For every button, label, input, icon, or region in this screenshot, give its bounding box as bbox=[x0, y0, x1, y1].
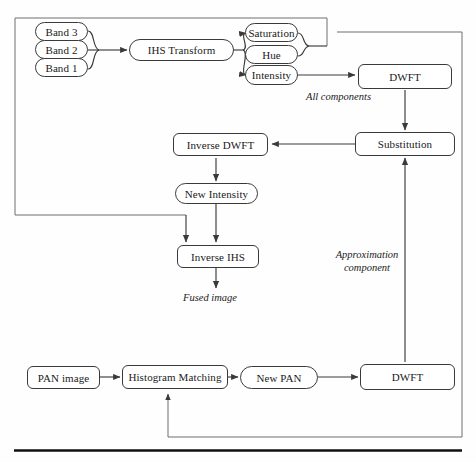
node-pan-image[interactable]: PAN image bbox=[27, 366, 100, 389]
node-ihs-transform-label: IHS Transform bbox=[148, 44, 216, 56]
node-band-1-label: Band 1 bbox=[45, 62, 77, 74]
node-intensity-label: Intensity bbox=[252, 69, 291, 81]
node-new-intensity[interactable]: New Intensity bbox=[175, 183, 258, 204]
node-substitution[interactable]: Substitution bbox=[355, 132, 455, 156]
node-new-pan[interactable]: New PAN bbox=[240, 366, 318, 389]
node-band-3[interactable]: Band 3 bbox=[35, 22, 88, 41]
node-dwft-top-label: DWFT bbox=[389, 71, 421, 83]
annotation-all-components: All components bbox=[306, 91, 371, 102]
node-inverse-dwft-label: Inverse DWFT bbox=[187, 139, 255, 151]
node-new-intensity-label: New Intensity bbox=[185, 188, 248, 200]
node-histogram-matching[interactable]: Histogram Matching bbox=[122, 365, 228, 389]
saturation-brace bbox=[298, 33, 309, 46]
band1-brace bbox=[88, 50, 99, 69]
node-saturation[interactable]: Saturation bbox=[245, 23, 298, 42]
hue-brace bbox=[298, 46, 309, 56]
annotation-fused-image: Fused image bbox=[183, 292, 237, 303]
node-hue-label: Hue bbox=[262, 49, 281, 61]
feedback-loop-path bbox=[168, 394, 462, 437]
node-inverse-ihs-label: Inverse IHS bbox=[191, 251, 245, 263]
node-dwft-bottom-label: DWFT bbox=[392, 371, 424, 383]
flowchart-diagram: Band 3 Band 2 Band 1 IHS Transform Satur… bbox=[0, 0, 476, 462]
node-hue[interactable]: Hue bbox=[245, 45, 298, 64]
node-new-pan-label: New PAN bbox=[256, 372, 301, 384]
band3-brace bbox=[88, 31, 99, 50]
node-dwft-top[interactable]: DWFT bbox=[358, 64, 452, 89]
node-substitution-label: Substitution bbox=[378, 138, 432, 150]
node-band-3-label: Band 3 bbox=[45, 26, 77, 38]
node-band-1[interactable]: Band 1 bbox=[35, 58, 88, 77]
node-band-2-label: Band 2 bbox=[45, 44, 77, 56]
node-histogram-matching-label: Histogram Matching bbox=[128, 371, 221, 383]
node-band-2[interactable]: Band 2 bbox=[35, 40, 88, 59]
node-saturation-label: Saturation bbox=[248, 27, 294, 39]
node-dwft-bottom[interactable]: DWFT bbox=[360, 364, 455, 390]
node-inverse-ihs[interactable]: Inverse IHS bbox=[177, 245, 259, 268]
node-pan-image-label: PAN image bbox=[38, 372, 90, 384]
annotation-approximation-component: Approximation component bbox=[326, 248, 408, 274]
node-ihs-transform[interactable]: IHS Transform bbox=[129, 39, 234, 61]
node-inverse-dwft[interactable]: Inverse DWFT bbox=[173, 133, 268, 156]
node-intensity[interactable]: Intensity bbox=[245, 65, 298, 85]
